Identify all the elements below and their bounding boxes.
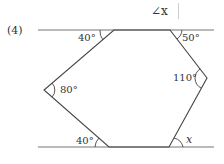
angle-label-x: x <box>186 134 192 145</box>
angle-arc-bottom-left <box>95 138 99 147</box>
angle-label-top-right: 50° <box>182 33 200 43</box>
problem-number: (4) <box>7 25 23 36</box>
angle-label-left: 80° <box>60 85 78 95</box>
angle-arc-bottom-right <box>174 138 183 147</box>
figure-canvas: ∠x (4) 40° 50° 110° 80° 40° x <box>0 0 224 164</box>
angle-label-right: 110° <box>173 73 197 83</box>
answer-box[interactable] <box>178 3 224 19</box>
angle-label-top-left: 40° <box>78 33 96 43</box>
angle-arc-left <box>52 83 55 97</box>
angle-arc-top-left <box>100 30 103 40</box>
angle-x-prompt: ∠x <box>151 5 168 17</box>
angle-label-bottom-left: 40° <box>76 136 94 146</box>
